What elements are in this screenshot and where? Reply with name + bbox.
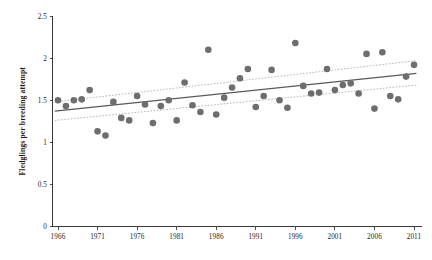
data-point <box>165 97 172 104</box>
x-tick-label: 1991 <box>248 233 263 241</box>
x-axis-ticks: 1966197119761981198619911996200120062011 <box>51 227 422 242</box>
ci-upper-line <box>55 61 417 102</box>
scatter-plot: 00.511.522.5 196619711976198119861991199… <box>0 0 432 260</box>
data-point <box>197 109 204 116</box>
x-tick-label: 1981 <box>169 233 184 241</box>
y-axis-ticks: 00.511.522.5 <box>38 13 53 232</box>
data-point <box>173 117 180 124</box>
data-point <box>205 46 212 53</box>
data-point <box>411 62 418 69</box>
data-point <box>387 93 394 100</box>
data-point <box>332 87 339 94</box>
data-point <box>276 97 283 104</box>
x-tick-label: 1996 <box>288 233 303 241</box>
data-point <box>126 117 133 124</box>
x-tick-label: 1976 <box>130 233 145 241</box>
data-point <box>379 49 386 56</box>
y-tick-label: 0.5 <box>38 181 48 189</box>
data-point <box>252 104 259 111</box>
data-point <box>221 94 228 101</box>
data-point <box>347 80 354 87</box>
regression-line <box>55 73 417 111</box>
data-point <box>142 101 149 108</box>
data-point <box>158 103 165 110</box>
data-point <box>78 96 85 103</box>
data-point <box>308 90 315 97</box>
x-tick-label: 2011 <box>407 233 422 241</box>
data-point <box>355 90 362 97</box>
confidence-interval-lines <box>55 61 417 121</box>
data-point <box>150 120 157 127</box>
data-point <box>229 84 236 91</box>
data-point <box>189 102 196 109</box>
y-tick-label: 1.5 <box>38 97 48 105</box>
data-point <box>324 66 331 73</box>
x-tick-label: 1966 <box>51 233 66 241</box>
data-point <box>237 75 244 82</box>
data-point <box>316 89 323 96</box>
data-point <box>55 97 62 104</box>
data-point <box>94 128 101 135</box>
data-point <box>300 83 307 90</box>
y-tick-label: 0 <box>43 223 47 231</box>
ci-lower-line <box>55 85 417 120</box>
data-point <box>268 67 275 74</box>
data-point <box>118 115 125 122</box>
y-tick-label: 1 <box>43 139 47 147</box>
data-point <box>110 99 117 106</box>
y-tick-label: 2 <box>43 55 47 63</box>
data-point <box>213 111 220 118</box>
data-point <box>71 97 78 104</box>
data-point <box>403 73 410 80</box>
data-point <box>284 104 291 111</box>
data-point <box>363 51 370 58</box>
data-point <box>292 40 299 47</box>
data-point <box>86 87 93 94</box>
data-point <box>181 79 188 86</box>
trend-line <box>55 73 417 111</box>
x-tick-label: 2001 <box>327 233 342 241</box>
data-point <box>134 93 141 100</box>
y-tick-label: 2.5 <box>38 13 48 21</box>
x-tick-label: 1986 <box>209 233 224 241</box>
data-point <box>63 103 70 110</box>
y-axis-title: Fledglings per breeding attempt <box>18 67 27 176</box>
data-point <box>245 66 252 73</box>
data-point <box>102 132 109 139</box>
x-tick-label: 1971 <box>90 233 105 241</box>
data-points <box>55 40 418 139</box>
data-point <box>260 93 267 100</box>
chart-container: 00.511.522.5 196619711976198119861991199… <box>0 0 432 260</box>
data-point <box>340 82 347 89</box>
data-point <box>371 105 378 112</box>
axes <box>53 16 423 227</box>
data-point <box>395 96 402 103</box>
x-tick-label: 2006 <box>367 233 382 241</box>
